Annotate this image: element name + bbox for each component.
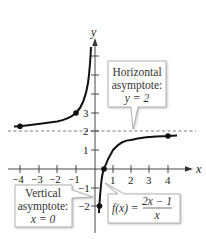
y-axis-arrow-icon xyxy=(92,38,97,46)
x-tick-label: −3 xyxy=(31,173,43,185)
y-tick-label: 3 xyxy=(83,107,89,119)
horizontal-asymptote-callout: Horizontal asymptote: y = 2 xyxy=(108,61,166,129)
x-tick-label: 3 xyxy=(146,174,152,186)
function-numerator: 2x − 1 xyxy=(142,195,172,207)
function-lhs: f(x) = xyxy=(112,202,139,215)
h-callout-line1: Horizontal xyxy=(112,66,161,78)
point-neg4 xyxy=(17,123,23,129)
x-tick-label: −2 xyxy=(49,173,61,185)
y-tick-label: −2 xyxy=(78,200,90,212)
h-callout-line3: y = 2 xyxy=(124,92,150,105)
function-denominator: x xyxy=(153,209,160,221)
v-callout-line3: x = 0 xyxy=(30,213,56,225)
point-4 xyxy=(165,133,171,139)
v-callout-line1: Vertical xyxy=(25,187,61,199)
y-axis: 3 2 1 −1 −2 y xyxy=(78,25,99,233)
x-tick-label: 2 xyxy=(128,174,134,186)
x-tick-label: 4 xyxy=(165,174,171,186)
y-axis-label: y xyxy=(90,25,97,39)
x-axis-label: x xyxy=(195,162,202,176)
x-tick-label: 1 xyxy=(110,174,116,186)
y-tick-label: 1 xyxy=(83,144,89,156)
point-neg1 xyxy=(73,110,79,116)
h-callout-line2: asymptote: xyxy=(112,79,162,92)
point-quarter xyxy=(97,203,103,209)
function-callout: f(x) = 2x − 1 x xyxy=(105,183,180,223)
point-x-intercept xyxy=(101,166,107,172)
curve-left-branch xyxy=(14,47,91,127)
x-axis-arrow-icon xyxy=(185,166,193,171)
y-tick-label: 2 xyxy=(83,125,89,137)
x-tick-label: −4 xyxy=(12,173,24,185)
v-callout-line2: asymptote: xyxy=(18,200,68,213)
rational-function-graph: −4 −3 −2 −1 1 2 3 4 x 3 2 1 −1 −2 y xyxy=(0,0,206,239)
